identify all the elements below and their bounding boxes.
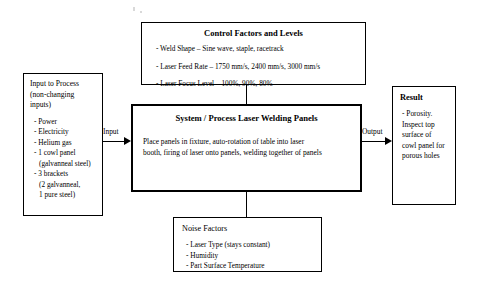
control-factors-title: Control Factors and Levels: [150, 28, 357, 39]
list-item: 1 pure steel): [39, 190, 97, 201]
input-to-process-title: Input to Process (non-changing inputs): [30, 79, 97, 111]
list-item: - 1 cowl panel: [34, 148, 97, 159]
input-to-process-box: Input to Process (non-changing inputs) -…: [23, 73, 103, 216]
result-box: Result - Porosity. Inspect top surface o…: [392, 86, 456, 205]
list-item: - Weld Shape – Sine wave, staple, racetr…: [156, 44, 357, 55]
control-factors-box: Control Factors and Levels - Weld Shape …: [141, 22, 366, 85]
list-item: - Power: [34, 117, 97, 128]
noise-factors-box: Noise Factors - Laser Type (stays consta…: [173, 217, 322, 272]
result-description: - Porosity. Inspect top surface of cowl …: [402, 109, 451, 162]
list-item: - 3 brackets: [34, 169, 97, 180]
edge-label-output: Output: [362, 127, 383, 136]
list-item: (galvanneal steel): [39, 159, 97, 170]
system-process-title: System / Process Laser Welding Panels: [143, 113, 350, 124]
list-item: - Laser Feed Rate – 1750 mm/s, 2400 mm/s…: [156, 62, 357, 73]
list-item: - Laser Type (stays constant): [186, 240, 315, 251]
list-item: (2 galvanneal,: [39, 180, 97, 191]
connector-system-to-noise: [246, 192, 247, 217]
scan-artifact-dot: [140, 11, 142, 13]
list-item: - Helium gas: [34, 138, 97, 149]
diagram-canvas: Input Output Control Factors and Levels …: [0, 0, 479, 285]
noise-factors-list: - Laser Type (stays constant) - Humidity…: [182, 240, 315, 272]
connector-output-line: [362, 141, 385, 142]
edge-label-input: Input: [103, 127, 119, 136]
connector-input-line: [103, 141, 124, 142]
connector-input-arrowhead: [124, 137, 131, 145]
control-factors-list: - Weld Shape – Sine wave, staple, racetr…: [150, 44, 357, 90]
connector-output-arrowhead: [385, 137, 392, 145]
system-process-box: System / Process Laser Welding Panels Pl…: [131, 104, 362, 192]
noise-factors-title: Noise Factors: [182, 223, 315, 234]
list-item: - Humidity: [186, 251, 315, 262]
input-to-process-list: - Power - Electricity - Helium gas - 1 c…: [30, 117, 97, 201]
list-item: - Electricity: [34, 127, 97, 138]
system-process-description: Place panels in fixture, auto-rotation o…: [143, 136, 350, 158]
result-title: Result: [400, 92, 451, 103]
scan-artifact: [133, 7, 135, 11]
list-item: - Part Surface Temperature: [186, 261, 315, 272]
list-item: - Laser Focus Level – 100%, 90%, 80%: [156, 79, 357, 90]
